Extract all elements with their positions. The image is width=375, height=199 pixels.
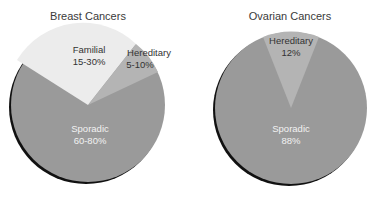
ovarian-hereditary-value: 12% [281, 47, 301, 58]
pie-charts: Familial 15-30% Hereditary 5-10% Sporadi… [0, 0, 375, 199]
breast-familial-value: 15-30% [73, 56, 106, 67]
breast-familial-label: Familial [73, 44, 106, 55]
ovarian-sporadic-label: Sporadic [272, 123, 310, 134]
ovarian-sporadic-value: 88% [281, 135, 301, 146]
ovarian-hereditary-label: Hereditary [269, 35, 313, 46]
breast-hereditary-value: 5-10% [126, 59, 154, 70]
ovarian-pie: Hereditary 12% Sporadic 88% [213, 32, 367, 186]
breast-pie: Familial 15-30% Hereditary 5-10% Sporadi… [9, 23, 171, 184]
breast-hereditary-label: Hereditary [127, 47, 171, 58]
breast-sporadic-label: Sporadic [71, 123, 109, 134]
breast-sporadic-value: 60-80% [74, 135, 107, 146]
